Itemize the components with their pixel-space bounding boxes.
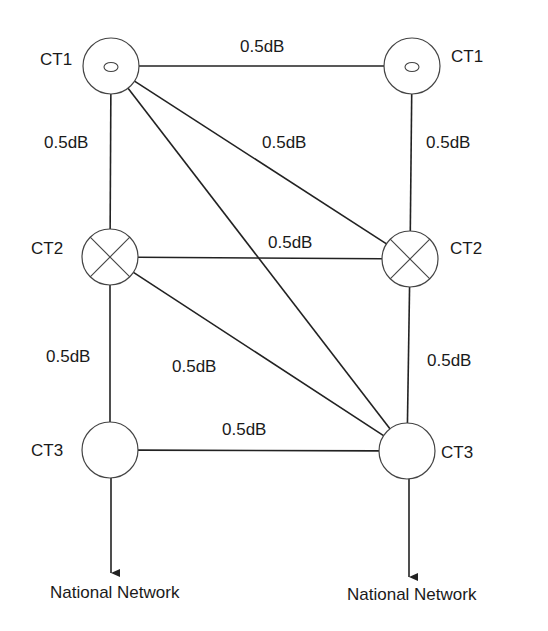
node-label: CT1 <box>40 50 72 69</box>
node-l_ct3 <box>82 422 138 478</box>
link-loss-label: 0.5dB <box>426 133 470 152</box>
national-network-label: National Network <box>50 583 180 602</box>
node-circle-icon <box>82 422 138 478</box>
node-circle-icon <box>384 38 440 94</box>
national-network-label: National Network <box>347 585 477 604</box>
link-loss-label: 0.5dB <box>44 133 88 152</box>
link-loss-label: 0.5dB <box>262 133 306 152</box>
node-circle-icon <box>379 423 435 479</box>
link-l_ct3-r_ct3 <box>138 450 379 451</box>
link-loss-label: 0.5dB <box>240 37 284 56</box>
node-l_ct2 <box>82 229 138 285</box>
link-l_ct1-l_ct2 <box>110 94 111 229</box>
node-r_ct1 <box>384 38 440 94</box>
link-l_ct1-r_ct2 <box>135 81 387 244</box>
node-r_ct2 <box>382 231 438 287</box>
node-label: CT2 <box>450 239 482 258</box>
link-loss-label: 0.5dB <box>268 233 312 252</box>
link-loss-label: 0.5dB <box>222 420 266 439</box>
node-label: CT2 <box>31 239 63 258</box>
ct-network-diagram: 0.5dB0.5dB0.5dB0.5dB0.5dB0.5dB0.5dB0.5dB… <box>0 0 548 631</box>
node-label: CT1 <box>451 47 483 66</box>
node-circle-icon <box>83 38 139 94</box>
node-label: CT3 <box>441 443 473 462</box>
link-loss-label: 0.5dB <box>427 351 471 370</box>
link-r_ct2-r_ct3 <box>407 287 409 423</box>
node-r_ct3 <box>379 423 435 479</box>
node-label: CT3 <box>31 441 63 460</box>
link-l_ct2-r_ct2 <box>138 257 382 259</box>
outputs-layer <box>111 478 409 577</box>
link-loss-label: 0.5dB <box>172 357 216 376</box>
node-l_ct1 <box>83 38 139 94</box>
link-r_ct1-r_ct2 <box>410 94 411 231</box>
link-loss-label: 0.5dB <box>46 347 90 366</box>
edges-layer <box>110 66 412 451</box>
link-l_ct2-r_ct3 <box>133 272 383 435</box>
labels-layer: 0.5dB0.5dB0.5dB0.5dB0.5dB0.5dB0.5dB0.5dB… <box>31 37 483 604</box>
